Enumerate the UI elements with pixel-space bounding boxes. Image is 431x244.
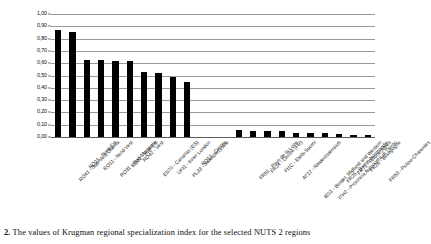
- y-tick-label: 1,00: [37, 11, 47, 16]
- bar: [127, 61, 134, 137]
- y-tick-label: 0,30: [37, 97, 47, 102]
- plot-region: 1,000,900,800,700,600,500,400,300,200,10…: [51, 14, 375, 137]
- y-tick-label: 0,10: [37, 122, 47, 127]
- bar: [155, 73, 162, 137]
- bar: [141, 72, 148, 137]
- bar: [84, 60, 91, 137]
- bar: [112, 61, 119, 137]
- y-tick-label: 0,70: [37, 48, 47, 53]
- y-tick-label: 0,90: [37, 24, 47, 29]
- bar: [98, 60, 105, 137]
- caption-text: The values of Krugman regional specializ…: [13, 228, 311, 237]
- bar: [170, 77, 177, 137]
- bar: [236, 130, 243, 137]
- y-tick-label: 0,20: [37, 110, 47, 115]
- y-tick-label: 0,50: [37, 73, 47, 78]
- x-axis-labels: RO41 - Sud-Vest OlteniaRO21 - Nord-EstRO…: [51, 137, 375, 217]
- y-tick-label: 0,60: [37, 60, 47, 65]
- y-tick-label: 0,80: [37, 36, 47, 41]
- figure-caption: 2. The values of Krugman regional specia…: [4, 228, 396, 237]
- y-tick-label: 0,00: [37, 134, 47, 139]
- chart-area: 1,000,900,800,700,600,500,400,300,200,10…: [14, 8, 378, 214]
- bar-series: [51, 14, 375, 137]
- bar: [184, 82, 191, 137]
- caption-number: 2.: [4, 228, 11, 237]
- y-tick-label: 0,40: [37, 85, 47, 90]
- bar: [69, 32, 76, 137]
- bar: [55, 30, 62, 137]
